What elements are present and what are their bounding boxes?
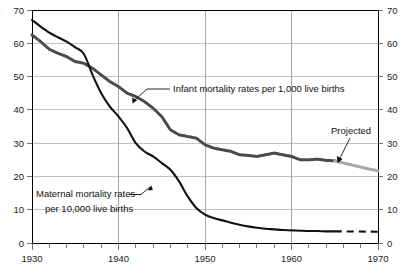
y-left-tick-50: 50 [13,71,24,82]
y-right-tick-40: 40 [387,104,398,115]
x-tick-1960: 1960 [281,253,302,264]
projected-annotation-label: Projected [331,125,371,136]
y-axis-right-labels: 70 60 50 40 30 20 10 0 [387,5,398,249]
y-left-tick-70: 70 [13,5,24,16]
y-left-ticks [27,10,32,243]
x-tick-1970: 1970 [367,253,388,264]
mortality-rates-line-chart: 70 60 50 40 30 20 10 0 70 60 50 40 30 20… [0,0,408,269]
y-right-tick-0: 0 [387,238,392,249]
y-right-tick-60: 60 [387,38,398,49]
y-right-tick-10: 10 [387,204,398,215]
y-right-tick-30: 30 [387,138,398,149]
x-axis-labels: 1930 1940 1950 1960 1970 [21,253,388,264]
y-right-ticks [378,10,383,243]
y-left-tick-0: 0 [19,238,24,249]
y-left-tick-10: 10 [13,204,24,215]
y-left-tick-40: 40 [13,104,24,115]
maternal-annotation-label-line1: Maternal mortality rates [36,188,136,199]
y-axis-left-labels: 70 60 50 40 30 20 10 0 [13,5,24,249]
y-left-tick-30: 30 [13,138,24,149]
infant-annotation-label: Infant mortality rates per 1,000 live bi… [173,83,345,94]
x-tick-1930: 1930 [21,253,42,264]
y-left-tick-60: 60 [13,38,24,49]
x-tick-1940: 1940 [108,253,129,264]
chart-container: 70 60 50 40 30 20 10 0 70 60 50 40 30 20… [0,0,408,269]
maternal-annotation-label-line2: per 10,000 live births [45,203,133,214]
y-left-tick-20: 20 [13,171,24,182]
y-right-tick-70: 70 [387,5,398,16]
y-right-tick-20: 20 [387,171,398,182]
x-tick-1950: 1950 [194,253,215,264]
y-right-tick-50: 50 [387,71,398,82]
